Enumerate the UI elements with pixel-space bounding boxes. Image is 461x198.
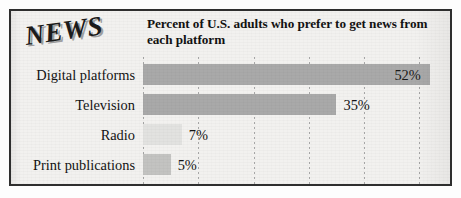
bar-value-label: 7% bbox=[189, 120, 208, 150]
chart-row: Print publications5% bbox=[11, 150, 450, 180]
news-logo: NEWS bbox=[25, 15, 145, 55]
page-title-line-1: Percent of U.S. adults who prefer to get bbox=[147, 16, 366, 31]
bar-category-label: Digital platforms bbox=[11, 60, 135, 90]
bar-value-label: 52% bbox=[394, 60, 420, 90]
bar-value-label: 35% bbox=[343, 90, 369, 120]
chart-row: Radio7% bbox=[11, 120, 450, 150]
bar-category-label: Television bbox=[11, 90, 135, 120]
bar-track: 52% bbox=[143, 60, 450, 90]
news-infographic-screenshot: NEWS Percent of U.S. adults who prefer t… bbox=[0, 0, 461, 198]
bar-category-label: Radio bbox=[11, 120, 135, 150]
bar-track: 7% bbox=[143, 120, 450, 150]
chart-row: Digital platforms52% bbox=[11, 60, 450, 90]
chart-header: NEWS Percent of U.S. adults who prefer t… bbox=[11, 11, 450, 58]
bar bbox=[143, 94, 336, 115]
chart-frame: NEWS Percent of U.S. adults who prefer t… bbox=[9, 9, 452, 186]
page-title: Percent of U.S. adults who prefer to get… bbox=[147, 16, 439, 47]
bar-track: 5% bbox=[143, 150, 450, 180]
bar bbox=[143, 124, 182, 145]
bar-track: 35% bbox=[143, 90, 450, 120]
news-logo-text: NEWS bbox=[23, 10, 105, 52]
chart-rows: Digital platforms52%Television35%Radio7%… bbox=[11, 57, 450, 186]
bar bbox=[143, 154, 171, 175]
chart-row: Television35% bbox=[11, 90, 450, 120]
bar-category-label: Print publications bbox=[11, 150, 135, 180]
bar-chart-plot-area: Digital platforms52%Television35%Radio7%… bbox=[11, 57, 450, 186]
bar-value-label: 5% bbox=[178, 150, 197, 180]
bar bbox=[143, 64, 430, 85]
